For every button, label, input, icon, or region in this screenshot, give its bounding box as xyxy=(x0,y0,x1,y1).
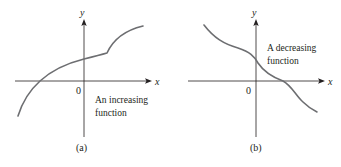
annotation-b-line1: A decreasing xyxy=(267,43,317,53)
panel-b: x y 0 A decreasing function (b) xyxy=(188,7,333,154)
figure-canvas: x y 0 An increasing function (a) x y 0 A… xyxy=(0,0,341,167)
caption-b: (b) xyxy=(250,142,262,154)
caption-a: (a) xyxy=(76,142,87,154)
annotation-a-line1: An increasing xyxy=(95,95,148,105)
origin-label-b: 0 xyxy=(246,85,251,96)
y-axis-label-b: y xyxy=(251,7,257,18)
x-axis-label-a: x xyxy=(154,76,160,87)
y-axis-label-a: y xyxy=(79,7,85,18)
x-axis-label-b: x xyxy=(327,76,333,87)
decreasing-curve xyxy=(204,25,317,112)
annotation-a-line2: function xyxy=(95,108,127,118)
origin-label-a: 0 xyxy=(76,85,81,96)
annotation-b-line2: function xyxy=(267,56,299,66)
panel-a: x y 0 An increasing function (a) xyxy=(15,7,160,154)
